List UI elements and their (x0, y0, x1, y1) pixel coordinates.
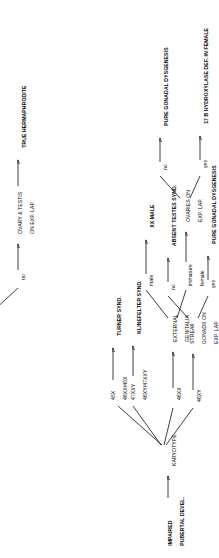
ovary-testis-line1: OVARY & TESTIS (17, 192, 23, 234)
outcome-xx-male-label: XX MALE (149, 204, 155, 227)
flowchart-canvas: IMPAIRED PUBERTAL DEVEL. KARYOTYPE 45X 4… (0, 0, 202, 558)
streak-line1: STREAK (189, 323, 195, 344)
edge-offscreen-no-label: no (20, 274, 26, 280)
outcome-pgd-ovaries-label: PURE GONADAL DYSGENESIS (163, 47, 169, 126)
edge-immature-line1: immature (187, 264, 193, 286)
edge-immature-line2: female (199, 270, 202, 286)
edge-karyotype-46xy: 46XY (190, 389, 202, 408)
edge-46xx-label: 46XX (176, 387, 182, 400)
karyotype-decision-node: KARYOTYPE (165, 434, 183, 472)
edge-karyotype-46xx: 46XX (170, 387, 188, 406)
streak-line2: GONADS ON (201, 312, 202, 344)
outcome-turner-label: TURNER SYND. (116, 296, 122, 336)
start-node-line1: IMPAIRED (167, 520, 173, 546)
edge-ovaries-no-label: no (162, 164, 168, 170)
outcome-turner-syndrome: TURNER SYND. (110, 296, 128, 342)
external-genitalia-line1: EXTERNAL (172, 314, 178, 342)
outcome-true-hermaphrodite-label: TRUE HERMAPHRODITE (21, 85, 27, 147)
edge-47xxy-line1: 47XXY (130, 384, 136, 400)
edge-karyotype-47xxy: 47XXY 46XY/47XXY (124, 369, 154, 406)
edge-ovaries-yes: yes (196, 160, 202, 174)
outcome-absent-testes-syndrome: ABSENT TESTES SYND. (165, 185, 183, 252)
karyotype-label: KARYOTYPE (171, 434, 177, 466)
edge-offscreen-no: no (14, 274, 32, 286)
edge-streak-no: no (164, 284, 182, 296)
outcome-true-hermaphrodite: TRUE HERMAPHRODITE (15, 85, 33, 154)
edge-external-genitalia-male: male (142, 275, 160, 292)
edge-45x-line1: 45X (110, 391, 116, 400)
start-node-line2: PUBERTAL DEVEL. (179, 497, 185, 546)
outcome-pure-gonadal-dysgenesis-ovaries: PURE GONADAL DYSGENESIS (157, 47, 175, 132)
edge-46xy-label: 46XY (196, 389, 202, 402)
edge-47xxy-line2: 46XY/47XXY (142, 369, 148, 400)
start-node: IMPAIRED PUBERTAL DEVEL. (161, 497, 191, 552)
edge-streak-no-label: no (170, 284, 176, 290)
ovaries-line1: OVARIES ON (185, 190, 191, 222)
outcome-17b-hydroxylase-deficiency: 17 B HYDROXYLASE DEF. IN FEMALE (197, 28, 202, 130)
node-streak-gonads-on-exp-lap: STREAK GONADS ON EXP. LAP. (183, 312, 202, 350)
edge-ovaries-no: no (156, 164, 174, 176)
ovary-testis-line2: ON EXP. LAP. (29, 201, 35, 234)
ovaries-line2: EXP. LAP. (197, 199, 202, 222)
diagram-rotation-wrapper: IMPAIRED PUBERTAL DEVEL. KARYOTYPE 45X 4… (0, 0, 202, 558)
edge-male-label: male (148, 275, 154, 286)
edge-external-genitalia-immature-female: immature female (181, 264, 202, 292)
outcome-xx-male: XX MALE (143, 204, 161, 234)
node-ovary-and-testis-on-exp-lap: OVARY & TESTIS ON EXP. LAP. (11, 192, 41, 240)
outcome-absent-testes-label: ABSENT TESTES SYND. (171, 185, 177, 246)
